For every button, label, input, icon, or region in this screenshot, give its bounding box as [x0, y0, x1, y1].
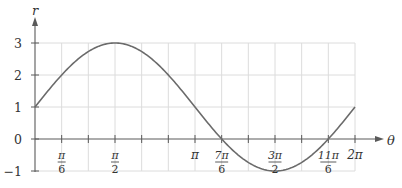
x-tick-label: 3π2 [268, 149, 283, 176]
x-tick-label: 7π6 [215, 149, 230, 176]
svg-text:π: π [57, 149, 66, 162]
y-tick-label: 0 [14, 132, 22, 147]
y-axis-arrow-icon [32, 17, 38, 26]
svg-text:2π: 2π [346, 148, 364, 162]
svg-text:2: 2 [272, 163, 279, 176]
x-tick-label: 2π [346, 148, 364, 162]
x-tick-label: π [190, 148, 200, 162]
svg-text:6: 6 [218, 163, 225, 176]
x-tick-label: π6 [57, 149, 66, 176]
x-tick-labels: π6π2π7π63π211π62π [57, 148, 364, 176]
x-axis-label: θ [387, 133, 395, 148]
y-tick-label: 1 [14, 100, 22, 115]
y-tick-labels: 3210−1 [4, 36, 22, 179]
svg-text:π: π [110, 149, 119, 162]
svg-text:6: 6 [325, 163, 332, 176]
svg-text:2: 2 [112, 163, 119, 176]
y-tick-label: −1 [4, 164, 22, 179]
y-tick-label: 2 [14, 68, 22, 83]
x-tick-label: 11π6 [318, 149, 340, 176]
svg-text:7π: 7π [215, 149, 230, 162]
y-tick-label: 3 [14, 36, 22, 51]
x-axis-arrow-icon [375, 136, 384, 142]
x-tick-label: π2 [110, 149, 119, 176]
y-axis-label: r [32, 3, 39, 18]
svg-text:3π: 3π [268, 149, 283, 162]
svg-text:6: 6 [58, 163, 65, 176]
polar-graph-chart: 3210−1 π6π2π7π63π211π62π r θ [0, 0, 402, 188]
svg-text:11π: 11π [318, 149, 340, 162]
svg-text:π: π [190, 148, 200, 162]
